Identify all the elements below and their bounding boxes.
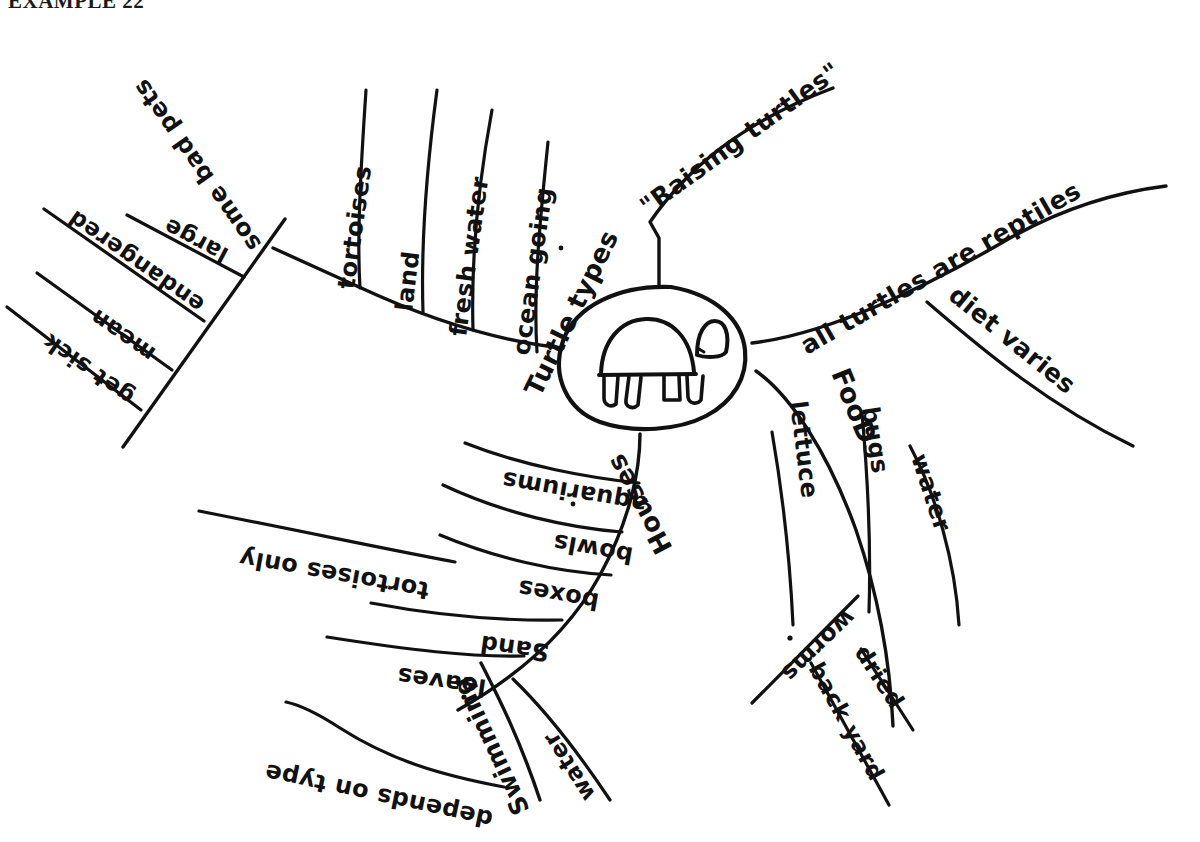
branch-bugs[interactable]: bugs (856, 405, 894, 612)
ink-dot-4 (787, 635, 792, 640)
turtle-eye-icon (699, 349, 704, 352)
branch-swimming-label: Swimming (446, 672, 535, 820)
turtle-leg-1-icon (604, 376, 618, 406)
branch-raising-turtles[interactable]: "Raising turtles" (634, 56, 845, 287)
branch-lettuce-label: lettuce (784, 399, 824, 500)
ink-dot-1 (559, 246, 564, 251)
branch-diet-varies[interactable]: diet varies (927, 280, 1133, 446)
mindmap-page: EXAMPLE 22 "Raising turtles" all turtles… (0, 0, 1200, 842)
branch-diet-varies-label: diet varies (943, 280, 1081, 400)
branch-tortoises[interactable]: tortoises (332, 90, 377, 291)
branch-diet-varies-line (927, 302, 1133, 446)
branch-dried-label: dried (850, 641, 910, 714)
branch-raising-turtles-label: "Raising turtles" (634, 56, 845, 220)
branch-all-turtles-are-reptiles-label: all turtles are reptiles (796, 176, 1086, 360)
branch-all-turtles-are-reptiles[interactable]: all turtles are reptiles (752, 176, 1166, 360)
branch-sand-label: Sand (478, 629, 551, 666)
ink-dot-2 (571, 502, 576, 507)
branch-water[interactable]: water (905, 446, 959, 625)
branch-swimming[interactable]: Swimming (446, 663, 540, 820)
branch-mean-label: mean (85, 304, 160, 367)
branch-depends-on-type-label: depends on type (262, 758, 495, 834)
branch-tortoises-only[interactable]: tortoises only (199, 511, 455, 605)
branch-tortoises-only-line (199, 511, 455, 562)
mindmap-canvas: "Raising turtles" all turtles are reptil… (0, 0, 1200, 842)
branch-fresh-water[interactable]: fresh water (444, 110, 494, 338)
branch-lettuce[interactable]: lettuce (772, 399, 824, 625)
branch-worms[interactable]: worms (752, 596, 861, 703)
branch-bowls-label: bowls (551, 528, 635, 570)
branch-bugs-label: bugs (856, 405, 894, 476)
branch-sand[interactable]: Sand (371, 603, 562, 667)
branch-fresh-water-label: fresh water (444, 175, 494, 338)
turtle-shell-icon (601, 319, 694, 374)
ink-dot-3 (461, 694, 466, 699)
branch-land[interactable]: land (390, 90, 437, 313)
branch-lettuce-line (772, 432, 793, 625)
branch-boxes-label: boxes (516, 574, 601, 616)
turtle-leg-4-icon (687, 376, 703, 403)
turtle-leg-3-icon (664, 376, 680, 400)
branch-land-label: land (390, 249, 425, 312)
branch-land-line (423, 90, 437, 312)
branch-swim-water-label: water (537, 727, 600, 806)
branch-water-label: water (905, 450, 956, 535)
turtle-leg-2-icon (626, 376, 641, 407)
branch-swim-water[interactable]: water (513, 679, 610, 806)
turtle-shell-base-icon (599, 374, 696, 375)
branch-tortoises-label: tortoises (332, 164, 377, 291)
